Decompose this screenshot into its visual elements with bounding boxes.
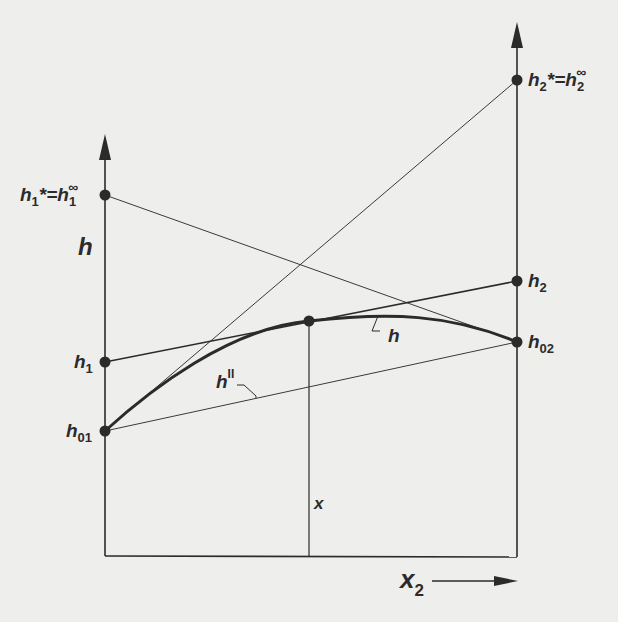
right-axis-arrow-icon (511, 22, 523, 48)
right-axis (511, 22, 523, 557)
axis-x-label: x2 (398, 564, 424, 600)
curve-h (105, 316, 517, 431)
bottom-axis (105, 556, 517, 557)
point-h2-star (512, 75, 523, 86)
label-h1: h1 (74, 351, 93, 376)
point-h2 (512, 276, 523, 287)
point-h1 (100, 357, 111, 368)
point-h1-star (100, 190, 111, 201)
label-h01: h01 (66, 420, 92, 445)
point-h02 (512, 337, 523, 348)
label-h2-star: h2*=h2∞ (528, 64, 586, 94)
curve-h-leader (372, 316, 380, 331)
chord-h01-to-h02 (105, 342, 517, 431)
label-h02: h02 (528, 331, 554, 356)
line-h01-to-h2star (105, 80, 517, 431)
chord-hII-label: hII (216, 367, 234, 392)
curve-h-label: h (388, 325, 400, 346)
point-h01 (100, 426, 111, 437)
x2-arrow-head-icon (494, 576, 518, 586)
vertical-marker-label: x (313, 494, 325, 513)
chord-leader (237, 385, 256, 398)
point-x-peak (304, 316, 315, 327)
label-h1-star: h1*=h1∞ (20, 179, 78, 209)
left-axis-arrow-icon (99, 134, 111, 160)
label-h2: h2 (528, 270, 547, 295)
diagram-canvas: h1*=h1∞ h2*=h2∞ h h2 h1 h01 h02 h hII x … (0, 0, 618, 622)
axis-y-label: h (78, 233, 93, 260)
